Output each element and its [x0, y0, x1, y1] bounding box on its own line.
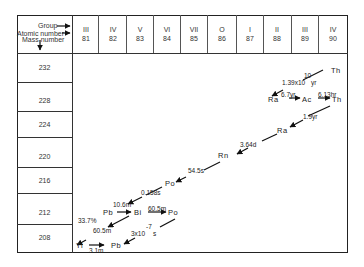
halflife-po216: 0.158s [141, 189, 161, 196]
halflife-th228: 1.9yr [303, 113, 317, 120]
nuclide-ra224: Ra [277, 126, 288, 135]
nuclide-tl208: Tl [76, 241, 83, 250]
nuclide-rn220: Rn [218, 151, 229, 160]
branch-percentage: 33.7% [78, 217, 96, 224]
halflife-bi212-beta: 60.5m [148, 205, 166, 212]
halflife-th232-base: 1.39x10 [282, 79, 305, 86]
halflife-bi212-alpha: 60.5m [93, 227, 111, 234]
nuclide-po216: Po [165, 179, 175, 188]
halflife-ra228: 6.7yr [281, 91, 295, 98]
halflife-pb212: 10.6m [113, 201, 131, 208]
halflife-po212-exp: -7 [146, 223, 152, 230]
halflife-po212-unit: s [153, 230, 156, 237]
halflife-rn220: 54.5s [188, 167, 204, 174]
nuclide-ac228: Ac [302, 95, 312, 104]
nuclide-po212: Po [168, 208, 178, 217]
nuclide-th232: Th [331, 66, 341, 75]
decay-arrows [0, 0, 364, 267]
nuclide-pb212: Pb [103, 208, 113, 217]
halflife-tl208: 3.1m [89, 247, 103, 254]
halflife-th232-exp: 10 [304, 72, 311, 79]
halflife-ac228: 6.13hr [318, 91, 336, 98]
nuclide-pb208: Pb [111, 241, 121, 250]
halflife-po212-base: 3x10 [131, 230, 145, 237]
halflife-th232-unit: yr [311, 79, 316, 86]
nuclide-bi212: Bi [134, 208, 142, 217]
halflife-ra224: 3.64d [240, 141, 256, 148]
nuclide-ra228: Ra [268, 95, 279, 104]
